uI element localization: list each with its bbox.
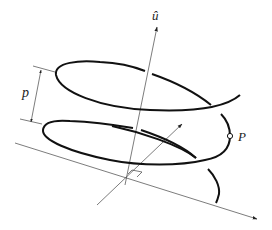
helix-descend <box>43 114 230 165</box>
pitch-label: p <box>21 85 29 100</box>
screw-axis <box>125 27 157 185</box>
axis-label: û <box>152 8 159 23</box>
helix-lower-partial <box>208 169 219 203</box>
helix-upper-front <box>56 61 240 110</box>
point-label: P <box>237 129 246 144</box>
helix-upper-back <box>112 126 196 158</box>
pitch-dimension-arrow <box>31 70 41 122</box>
helix-upper-back-segment <box>152 74 211 105</box>
point-p-marker <box>227 133 232 138</box>
helix-diagram: û p P <box>0 0 272 230</box>
diagram-svg: û p P <box>0 0 272 230</box>
pitch-extension-top <box>33 66 55 72</box>
